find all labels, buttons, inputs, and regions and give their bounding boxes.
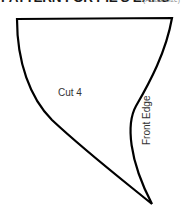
front-edge-label: Front Edge [141, 96, 152, 145]
pattern-piece-drawing [0, 0, 181, 216]
cut-quantity-label: Cut 4 [58, 87, 82, 99]
pattern-sheet: PATTERN FOR PIE'S EARS (Actual Size) Cut… [0, 0, 181, 216]
